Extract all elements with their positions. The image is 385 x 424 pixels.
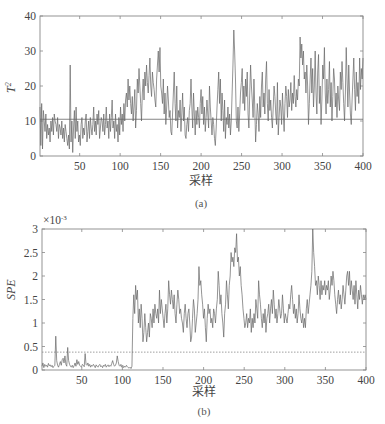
y-tick-label: 40: [25, 10, 37, 22]
data-series-line: [40, 30, 363, 153]
y-tick-label: 30: [25, 45, 37, 57]
x-tick-label: 300: [273, 160, 291, 172]
y-tick-label: 1.5: [24, 294, 39, 306]
caption: (b): [198, 405, 211, 418]
y-scale-label: ×10-3: [43, 214, 67, 226]
x-tick-label: 150: [152, 160, 170, 172]
x-tick-label: 250: [233, 160, 251, 172]
x-tick-label: 350: [314, 160, 332, 172]
y-axis-label: T2: [4, 82, 18, 93]
x-tick-label: 200: [192, 160, 210, 172]
figure: 010203040 50100150200250300350400 T2 采样 …: [0, 0, 385, 424]
y-tick-label: 1: [32, 317, 38, 329]
caption: (a): [195, 197, 208, 210]
y-axis-label: SPE: [4, 279, 18, 300]
y-tick-label: 0.5: [24, 341, 39, 353]
x-axis-label: 采样: [189, 173, 213, 188]
y-tick-label: 0: [32, 364, 38, 376]
x-tick-label: 100: [114, 374, 132, 386]
x-tick-label: 350: [317, 374, 335, 386]
y-tick-label: 3: [32, 223, 38, 235]
x-tick-label: 400: [357, 374, 375, 386]
x-tick-label: 400: [354, 160, 372, 172]
x-tick-label: 50: [76, 374, 88, 386]
y-tick-label: 20: [25, 80, 37, 92]
data-series-line: [42, 229, 366, 369]
x-tick-label: 150: [154, 374, 172, 386]
x-axis-label: 采样: [192, 384, 216, 399]
y-tick-label: 2.5: [24, 247, 39, 259]
chart-panel-a: 010203040 50100150200250300350400 T2 采样 …: [4, 10, 372, 210]
x-tick-label: 100: [112, 160, 130, 172]
chart-panel-b: ×10-3 00.511.522.53 50100150200250300350…: [4, 214, 375, 418]
x-tick-label: 300: [276, 374, 294, 386]
y-tick-label: 2: [32, 270, 38, 282]
y-axis-ticks: 00.511.522.53: [24, 223, 366, 376]
x-tick-label: 50: [74, 160, 86, 172]
plot-frame: [42, 229, 366, 370]
x-tick-label: 250: [236, 374, 254, 386]
y-tick-label: 10: [25, 115, 37, 127]
y-tick-label: 0: [30, 150, 36, 162]
